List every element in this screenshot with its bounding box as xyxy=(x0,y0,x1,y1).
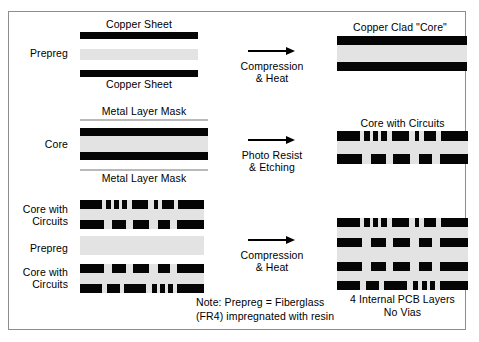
row1-stack xyxy=(80,32,198,77)
copper-trace-segment xyxy=(80,264,104,273)
copper-trace-segment xyxy=(419,154,432,164)
row3-left-label-1-line2: Circuits xyxy=(10,215,68,228)
copper-trace-segment xyxy=(178,200,204,209)
copper-trace-segment xyxy=(381,218,387,227)
copper-trace-segment xyxy=(122,200,128,209)
copper-trace-segment xyxy=(160,284,165,293)
note-line1: Note: Prepreg = Fiberglass xyxy=(196,296,324,309)
copper-sheet-bottom xyxy=(80,70,198,77)
row3-left-label-3-line2: Circuits xyxy=(10,278,68,291)
copper-trace-segment xyxy=(424,131,436,141)
copper-trace-segment xyxy=(392,218,409,227)
row1-left-label: Prepreg xyxy=(18,47,68,60)
row1-bottom-label: Copper Sheet xyxy=(80,78,198,91)
copper-trace-segment xyxy=(337,262,362,271)
copper-trace-segment xyxy=(364,218,370,227)
row3-result-stack xyxy=(337,218,468,290)
copper-trace-segment xyxy=(158,264,170,273)
row3-left-label-1-line1: Core with xyxy=(10,203,68,216)
core-copper-top xyxy=(337,36,467,45)
copper-trace-segment xyxy=(133,220,149,229)
row3-arrow-label-line1: Compression xyxy=(238,249,306,262)
copper-trace-segment xyxy=(133,264,149,273)
pcb-circuit-layer-1 xyxy=(337,218,468,227)
circuit-layer-top xyxy=(80,200,204,209)
copper-trace-segment xyxy=(419,262,432,271)
copper-trace-segment xyxy=(422,281,427,290)
diagram-canvas: Copper Sheet Prepreg Copper Sheet Compre… xyxy=(0,0,479,342)
circuit-layer-bottom xyxy=(337,154,468,164)
copper-trace-segment xyxy=(440,262,468,271)
prepreg-layer xyxy=(80,49,198,60)
copper-trace-segment xyxy=(168,284,173,293)
copper-trace-segment xyxy=(415,131,419,141)
copper-trace-segment xyxy=(80,220,104,229)
copper-trace-segment xyxy=(80,284,102,293)
copper-trace-segment xyxy=(430,281,435,290)
copper-trace-segment xyxy=(424,218,436,227)
row3-arrow-icon xyxy=(248,236,296,244)
copper-trace-segment xyxy=(384,281,407,290)
pcb-circuit-layer-3 xyxy=(337,262,468,271)
copper-trace-segment xyxy=(177,284,204,293)
row3-prepreg-layer xyxy=(80,236,204,255)
copper-trace-segment xyxy=(337,281,360,290)
copper-trace-segment xyxy=(154,200,158,209)
row2-arrow-label-line1: Photo Resist xyxy=(238,149,306,162)
row3-arrow-label-line2: & Heat xyxy=(238,261,306,274)
row2-bottom-label: Metal Layer Mask xyxy=(80,172,208,185)
copper-sheet-top xyxy=(80,32,198,39)
row2-top-label: Metal Layer Mask xyxy=(80,105,208,118)
copper-trace-segment xyxy=(337,238,362,247)
copper-trace-segment xyxy=(112,220,126,229)
row3-core-stack-bottom xyxy=(80,264,204,293)
copper-trace-segment xyxy=(106,200,112,209)
row2-arrow-icon xyxy=(248,136,296,144)
core-dielectric xyxy=(337,45,467,62)
circuit-layer-bottom xyxy=(80,220,204,229)
row3-left-label-2: Prepreg xyxy=(10,242,68,255)
circuit-layer-bottom xyxy=(80,284,204,293)
copper-trace-segment xyxy=(132,200,148,209)
copper-trace-segment xyxy=(419,238,432,247)
metal-layer-mask-bottom xyxy=(80,169,208,171)
row2-result-label: Core with Circuits xyxy=(335,117,470,130)
copper-trace-segment xyxy=(337,154,362,164)
row1-arrow-icon xyxy=(248,47,296,55)
row3-result-label-line1: 4 Internal PCB Layers xyxy=(330,293,475,306)
row2-result-stack xyxy=(337,131,468,164)
copper-trace-segment xyxy=(393,238,410,247)
copper-trace-segment xyxy=(440,154,468,164)
core-copper-bottom xyxy=(80,152,208,160)
copper-trace-segment xyxy=(364,131,370,141)
row1-top-label: Copper Sheet xyxy=(80,18,198,31)
copper-trace-segment xyxy=(440,281,468,290)
copper-trace-segment xyxy=(371,154,386,164)
copper-trace-segment xyxy=(80,200,102,209)
core-copper-bottom xyxy=(337,62,467,71)
copper-trace-segment xyxy=(177,220,204,229)
row3-left-label-3-line1: Core with xyxy=(10,266,68,279)
copper-trace-segment xyxy=(112,264,126,273)
copper-trace-segment xyxy=(162,200,173,209)
copper-trace-segment xyxy=(413,281,418,290)
copper-trace-segment xyxy=(114,200,119,209)
copper-trace-segment xyxy=(415,218,419,227)
copper-trace-segment xyxy=(373,131,378,141)
row2-arrow-label-line2: & Etching xyxy=(238,161,306,174)
copper-trace-segment xyxy=(393,262,410,271)
pcb-dielectric xyxy=(337,218,468,290)
row1-arrow-label-line2: & Heat xyxy=(238,72,306,85)
row3-core-stack-top xyxy=(80,200,204,229)
copper-trace-segment xyxy=(440,238,468,247)
copper-trace-segment xyxy=(393,154,410,164)
circuit-layer-top xyxy=(80,264,204,273)
row2-stack xyxy=(80,119,208,171)
copper-trace-segment xyxy=(373,218,378,227)
row1-result-label: Copper Clad "Core" xyxy=(330,21,470,34)
copper-trace-segment xyxy=(152,284,157,293)
row1-arrow-label-line1: Compression xyxy=(238,60,306,73)
core-dielectric xyxy=(80,136,208,152)
copper-trace-segment xyxy=(381,131,387,141)
copper-trace-segment xyxy=(337,131,360,141)
